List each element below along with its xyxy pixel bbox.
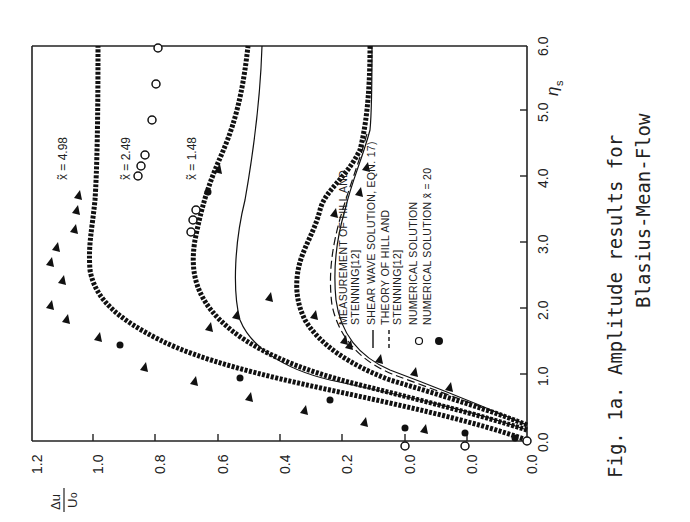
eta-tick-5: 5.0 (535, 102, 551, 122)
legend-triangle-icon (340, 335, 348, 345)
amp-tick-0.4: 0.4 (277, 454, 293, 474)
eta-tick-6: 6.0 (535, 36, 551, 56)
svg-text:U: U (65, 499, 80, 508)
amp-tick-0.0-c: 0.0 (524, 454, 540, 474)
amp-tick-1.0: 1.0 (90, 454, 106, 474)
eta-tick-labels: 0.0 1.0 2.0 3.0 4.0 5.0 6.0 η s (535, 36, 565, 452)
curve-x249-numerical (193, 46, 527, 430)
amp-tick-labels: 1.2 1.0 0.8 0.6 0.4 0.2 0.0 0.0 0.0 (29, 454, 540, 474)
curve-label-x249: x̃ = 2.49 (119, 137, 133, 180)
svg-text:η: η (543, 87, 562, 96)
legend-item-2: SHEAR WAVE SOLUTION, EQN. 17) (365, 141, 377, 325)
legend-item-1-line1: MEASUREMENT OF HILL AND (337, 170, 349, 325)
amp-tick-0.2: 0.2 (339, 454, 355, 474)
legend-item-1-line2: STENNING[12] (349, 250, 361, 325)
legend-open-circle-icon (416, 338, 423, 345)
svg-text:s: s (553, 80, 565, 86)
legend-filled-circle-icon (435, 337, 443, 345)
amp-tick-0.0-b: 0.0 (464, 454, 480, 474)
eta-tick-0: 0.0 (535, 432, 551, 452)
legend-item-5: NUMERICAL SOLUTION x̃ = 20 (421, 168, 433, 325)
amp-axis-ticks (93, 434, 467, 441)
legend-item-4: NUMERICAL SOLUTION (407, 202, 419, 325)
eta-tick-1: 1.0 (535, 366, 551, 386)
eta-tick-4: 4.0 (535, 168, 551, 188)
amp-axis-label: Δu U o (48, 488, 80, 512)
filled-circle-markers (117, 189, 519, 442)
svg-text:Δu: Δu (48, 494, 63, 510)
curve-label-x148: x̃ = 1.48 (185, 137, 199, 180)
figure-caption-line1: Fig. 1a. Amplitude results for (604, 135, 626, 478)
eta-tick-3: 3.0 (535, 234, 551, 254)
curve-label-x498: x̃ = 4.98 (56, 137, 70, 180)
plot-frame (32, 46, 527, 441)
legend-item-3-line1: THEORY OF HILL AND (379, 209, 391, 325)
amplitude-figure: 0.0 1.0 2.0 3.0 4.0 5.0 6.0 η s 1.2 1.0 … (0, 0, 690, 522)
amp-tick-1.2: 1.2 (29, 454, 45, 474)
amp-tick-0.8: 0.8 (152, 454, 168, 474)
svg-text:o: o (68, 492, 79, 498)
amp-tick-0.0-a: 0.0 (402, 454, 418, 474)
figure-caption-line2: Blasius-Mean-Flow (632, 113, 654, 308)
legend: MEASUREMENT OF HILL AND STENNING[12] SHE… (337, 141, 443, 348)
eta-axis-label: η s (543, 80, 565, 96)
curves (89, 46, 527, 440)
legend-item-3-line2: STENNING[12] (391, 250, 403, 325)
eta-tick-2: 2.0 (535, 300, 551, 320)
amp-tick-0.6: 0.6 (215, 454, 231, 474)
eta-axis-ticks (520, 110, 527, 374)
